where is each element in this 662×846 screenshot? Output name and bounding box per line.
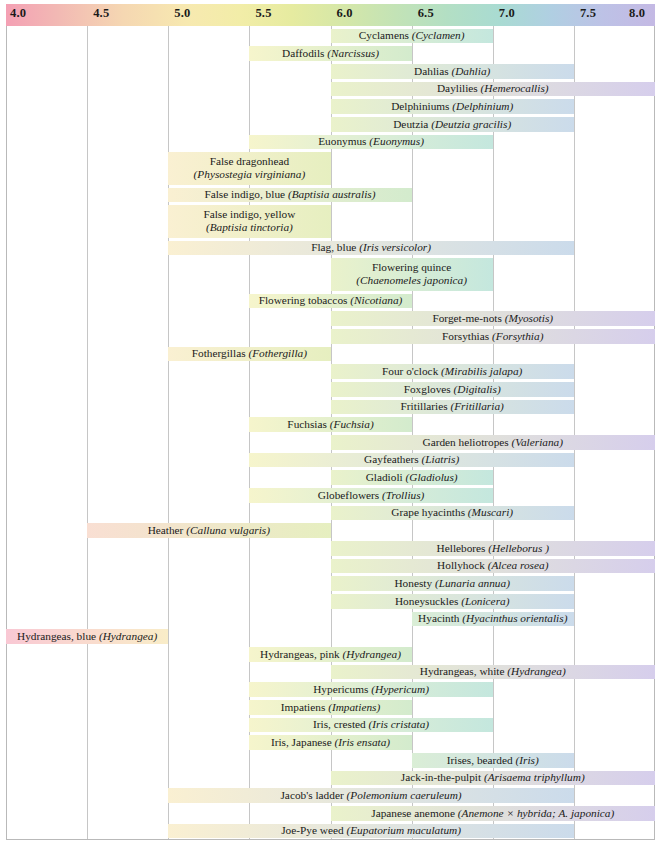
plant-row: Cyclamens (Cyclamen) — [6, 27, 655, 45]
plant-name-label: Heather (Calluna vulgaris) — [144, 524, 274, 537]
plant-row: Hydrangeas, white (Hydrangea) — [6, 663, 655, 681]
plant-row: Hollyhock (Alcea rosea) — [6, 557, 655, 575]
plant-name-label: Impatiens (Impatiens) — [277, 701, 384, 714]
plant-row: Flowering tobaccos (Nicotiana) — [6, 292, 655, 310]
plant-name-label: Cyclamens (Cyclamen) — [355, 29, 469, 42]
plant-name-label: Hydrangeas, blue (Hydrangea) — [13, 630, 161, 643]
ph-range-bar[interactable]: Grape hyacinths (Muscari) — [331, 506, 574, 521]
ph-range-bar[interactable]: Fritillaries (Fritillaria) — [331, 400, 574, 415]
plant-row: Deutzia (Deutzia gracilis) — [6, 115, 655, 133]
ph-range-bar[interactable]: Honesty (Lunaria annua) — [331, 576, 574, 591]
ph-range-bar[interactable]: Gayfeathers (Liatris) — [249, 453, 574, 468]
plant-row: Gladioli (Gladiolus) — [6, 469, 655, 487]
plant-name-label: Four o'clock (Mirabilis jalapa) — [378, 365, 526, 378]
ph-range-bar[interactable]: Hydrangeas, pink (Hydrangea) — [249, 647, 411, 662]
ph-range-bar[interactable]: Dahlias (Dahlia) — [331, 64, 574, 79]
plant-name-label: Honesty (Lunaria annua) — [390, 577, 514, 590]
plant-row: Fuchsias (Fuchsia) — [6, 416, 655, 434]
ph-range-bar[interactable]: Iris, Japanese (Iris ensata) — [249, 735, 411, 750]
ph-range-bar[interactable]: Flag, blue (Iris versicolor) — [168, 241, 574, 256]
ph-range-bar[interactable]: Hellebores (Helleborus ) — [331, 541, 656, 556]
ph-range-bar[interactable]: Delphiniums (Delphinium) — [331, 99, 574, 114]
plant-row: Dahlias (Dahlia) — [6, 62, 655, 80]
plant-name-label: Fothergillas (Fothergilla) — [188, 347, 311, 360]
plant-name-label: False dragonhead(Physostegia virginiana) — [190, 155, 310, 182]
plant-name-label: Forsythias (Forsythia) — [438, 330, 547, 343]
ph-range-bar[interactable]: Hollyhock (Alcea rosea) — [331, 559, 656, 574]
plant-name-label: Iris, crested (Iris cristata) — [309, 718, 433, 731]
axis-tick-8-0: 8.0 — [629, 6, 645, 21]
plant-row: Daylilies (Hemerocallis) — [6, 80, 655, 98]
plant-row: Impatiens (Impatiens) — [6, 699, 655, 717]
axis-tick-6-0: 6.0 — [337, 6, 353, 21]
ph-range-bar[interactable]: Daffodils (Narcissus) — [249, 46, 411, 61]
plant-row: Flag, blue (Iris versicolor) — [6, 239, 655, 257]
ph-range-bar[interactable]: Hyacinth (Hyacinthus orientalis) — [412, 612, 574, 627]
ph-range-bar[interactable]: Irises, bearded (Iris) — [412, 753, 574, 768]
plant-row: False indigo, yellow(Baptisia tinctoria) — [6, 204, 655, 239]
ph-range-bar[interactable]: Gladioli (Gladiolus) — [331, 470, 493, 485]
plant-name-label: Globeflowers (Trollius) — [314, 489, 429, 502]
plant-row: False indigo, blue (Baptisia australis) — [6, 186, 655, 204]
plant-name-label: Hypericums (Hypericum) — [309, 683, 433, 696]
ph-range-bar[interactable]: Impatiens (Impatiens) — [249, 700, 411, 715]
ph-range-bar[interactable]: Four o'clock (Mirabilis jalapa) — [331, 364, 574, 379]
ph-range-bar[interactable]: False indigo, blue (Baptisia australis) — [168, 188, 411, 203]
ph-range-bar[interactable]: False indigo, yellow(Baptisia tinctoria) — [168, 205, 330, 237]
ph-range-bar[interactable]: Hypericums (Hypericum) — [249, 682, 492, 697]
axis-tick-4-0: 4.0 — [10, 6, 26, 21]
plant-rows: Cyclamens (Cyclamen)Daffodils (Narcissus… — [6, 27, 655, 840]
plant-name-label: Foxgloves (Digitalis) — [400, 383, 505, 396]
plant-name-label: Japanese anemone (Anemone × hybrida; A. … — [367, 807, 618, 820]
plant-row: Globeflowers (Trollius) — [6, 486, 655, 504]
ph-range-bar[interactable]: Hydrangeas, white (Hydrangea) — [331, 665, 656, 680]
ph-range-bar[interactable]: Joe-Pye weed (Eupatorium maculatum) — [168, 824, 574, 839]
plant-row: Hyacinth (Hyacinthus orientalis) — [6, 610, 655, 628]
plant-name-label: Grape hyacinths (Muscari) — [387, 506, 517, 519]
plant-name-label: Deutzia (Deutzia gracilis) — [389, 118, 515, 131]
plant-row: Hypericums (Hypericum) — [6, 681, 655, 699]
ph-range-bar[interactable]: Hydrangeas, blue (Hydrangea) — [6, 629, 168, 644]
plant-name-label: Flowering quince(Chaenomeles japonica) — [352, 261, 471, 288]
plant-row: Jack-in-the-pulpit (Arisaema triphyllum) — [6, 769, 655, 787]
plant-row: Hydrangeas, blue (Hydrangea) — [6, 628, 655, 646]
plant-row: Forget-me-nots (Myosotis) — [6, 310, 655, 328]
ph-range-bar[interactable]: Heather (Calluna vulgaris) — [87, 523, 330, 538]
ph-range-bar[interactable]: Japanese anemone (Anemone × hybrida; A. … — [331, 806, 656, 821]
plant-row: Heather (Calluna vulgaris) — [6, 522, 655, 540]
axis-tick-6-5: 6.5 — [418, 6, 434, 21]
ph-range-bar[interactable]: Cyclamens (Cyclamen) — [331, 29, 493, 44]
plant-name-label: Euonymus (Euonymus) — [314, 135, 428, 148]
ph-range-bar[interactable]: Fothergillas (Fothergilla) — [168, 347, 330, 362]
axis-tick-5-5: 5.5 — [255, 6, 271, 21]
ph-range-bar[interactable]: Jacob's ladder (Polemonium caeruleum) — [168, 788, 574, 803]
ph-range-bar[interactable]: False dragonhead(Physostegia virginiana) — [168, 152, 330, 184]
ph-range-bar[interactable]: Deutzia (Deutzia gracilis) — [331, 117, 574, 132]
plant-row: Forsythias (Forsythia) — [6, 327, 655, 345]
plant-name-label: Gayfeathers (Liatris) — [360, 453, 463, 466]
ph-range-bar[interactable]: Honeysuckles (Lonicera) — [331, 594, 574, 609]
ph-range-bar[interactable]: Jack-in-the-pulpit (Arisaema triphyllum) — [331, 771, 656, 786]
ph-range-bar[interactable]: Flowering tobaccos (Nicotiana) — [249, 294, 411, 309]
ph-range-bar[interactable]: Euonymus (Euonymus) — [249, 135, 492, 150]
ph-range-bar[interactable]: Forsythias (Forsythia) — [331, 329, 656, 344]
plant-row: Fothergillas (Fothergilla) — [6, 345, 655, 363]
plant-name-label: Daffodils (Narcissus) — [278, 47, 383, 60]
plant-row: Honesty (Lunaria annua) — [6, 575, 655, 593]
plant-row: Jacob's ladder (Polemonium caeruleum) — [6, 787, 655, 805]
ph-range-bar[interactable]: Iris, crested (Iris cristata) — [249, 718, 492, 733]
axis-tick-7-0: 7.0 — [499, 6, 515, 21]
ph-range-bar[interactable]: Foxgloves (Digitalis) — [331, 382, 574, 397]
ph-range-bar[interactable]: Globeflowers (Trollius) — [249, 488, 492, 503]
plant-row: Grape hyacinths (Muscari) — [6, 504, 655, 522]
plant-row: Four o'clock (Mirabilis jalapa) — [6, 363, 655, 381]
ph-range-bar[interactable]: Flowering quince(Chaenomeles japonica) — [331, 258, 493, 290]
plant-row: Daffodils (Narcissus) — [6, 45, 655, 63]
plant-name-label: Fuchsias (Fuchsia) — [283, 418, 377, 431]
ph-range-bar[interactable]: Garden heliotropes (Valeriana) — [331, 435, 656, 450]
ph-range-bar[interactable]: Daylilies (Hemerocallis) — [331, 82, 656, 97]
plant-name-label: Dahlias (Dahlia) — [410, 65, 494, 78]
ph-range-bar[interactable]: Fuchsias (Fuchsia) — [249, 417, 411, 432]
ph-range-bar[interactable]: Forget-me-nots (Myosotis) — [331, 311, 656, 326]
plant-row: Honeysuckles (Lonicera) — [6, 593, 655, 611]
